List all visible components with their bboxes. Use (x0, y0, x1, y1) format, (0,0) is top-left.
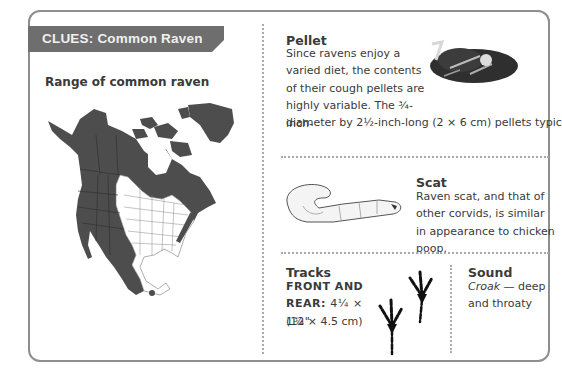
range-title: Range of common raven (45, 75, 209, 89)
tracks-image (378, 268, 442, 358)
clues-banner: CLUES: Common Raven (28, 26, 224, 52)
pellet-image (420, 38, 520, 86)
scat-text: Raven scat, and that of other corvids, i… (416, 188, 556, 258)
section-divider (281, 252, 549, 254)
scat-image (283, 178, 408, 228)
tracks-sound-divider (450, 265, 452, 353)
column-divider (262, 24, 264, 354)
sound-text: Croak — deep and throaty (468, 278, 548, 313)
tracks-size-cm: (12 × 4.5 cm) (286, 313, 363, 330)
banner-title: CLUES: Common Raven (42, 31, 203, 46)
pellet-text-full: diameter by 2½-inch-long (2 × 6 cm) pell… (286, 114, 556, 131)
section-divider (281, 156, 549, 158)
range-map (40, 95, 245, 300)
